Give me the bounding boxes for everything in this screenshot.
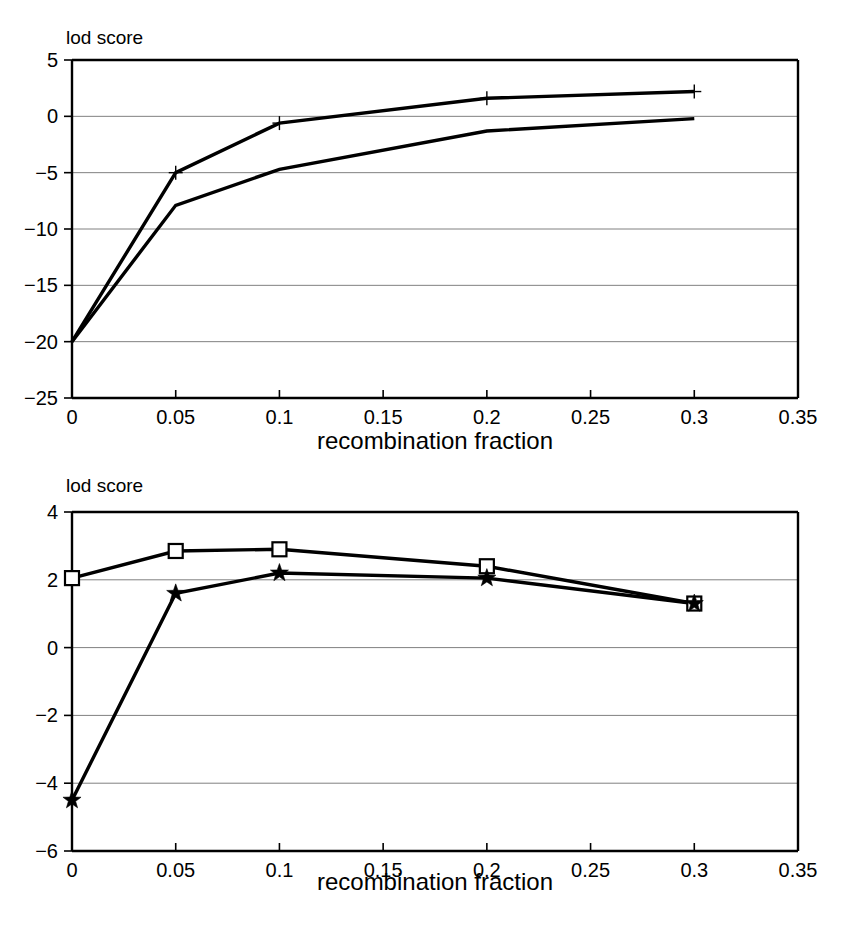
y-tick-label: −6 bbox=[35, 840, 58, 862]
y-tick-labels-bottom: 420−2−4−6 bbox=[35, 501, 58, 862]
x-axis-title-bottom: recombination fraction bbox=[317, 868, 553, 895]
marker-plus-series-upper bbox=[480, 91, 494, 105]
y-tick-label: −2 bbox=[35, 704, 58, 726]
x-tick-label: 0.25 bbox=[571, 859, 610, 881]
x-tick-label: 0.05 bbox=[156, 859, 195, 881]
marker-square-icon bbox=[65, 571, 79, 585]
series-group-bottom bbox=[72, 549, 694, 800]
series-line-series-lower bbox=[72, 119, 694, 342]
x-tick-labels-top: 00.050.10.150.20.250.30.35 bbox=[66, 406, 817, 428]
x-tick-label: 0.35 bbox=[779, 406, 818, 428]
x-tick-label: 0.3 bbox=[680, 406, 708, 428]
x-tick-label: 0 bbox=[66, 859, 77, 881]
x-tick-label: 0.1 bbox=[266, 859, 294, 881]
y-tick-label: 0 bbox=[47, 105, 58, 127]
gridlines-top bbox=[72, 116, 798, 341]
x-tick-label: 0.25 bbox=[571, 406, 610, 428]
x-tick-label: 0.05 bbox=[156, 406, 195, 428]
y-tick-label: 5 bbox=[47, 49, 58, 71]
x-axis-title-top: recombination fraction bbox=[317, 427, 553, 454]
y-tick-label: −10 bbox=[24, 218, 58, 240]
x-tick-label: 0 bbox=[66, 406, 77, 428]
y-tick-label: 4 bbox=[47, 501, 58, 523]
figure-container: 50−5−10−15−20−25 00.050.10.150.20.250.30… bbox=[0, 0, 850, 938]
marker-plus-series-upper bbox=[687, 85, 701, 99]
y-tick-label: 0 bbox=[47, 637, 58, 659]
chart-panel-bottom: 420−2−4−6 00.050.10.150.20.250.30.35 lod… bbox=[0, 452, 850, 938]
chart-svg-bottom: 420−2−4−6 00.050.10.150.20.250.30.35 lod… bbox=[0, 452, 850, 938]
markers-bottom bbox=[63, 542, 703, 808]
x-tick-label: 0.1 bbox=[266, 406, 294, 428]
y-tick-label: −4 bbox=[35, 772, 58, 794]
x-tick-label: 0.2 bbox=[473, 406, 501, 428]
y-tick-label: 2 bbox=[47, 569, 58, 591]
chart-panel-top: 50−5−10−15−20−25 00.050.10.150.20.250.30… bbox=[0, 0, 850, 470]
series-line-series-star bbox=[72, 573, 694, 800]
y-axis-caption-bottom: lod score bbox=[66, 475, 143, 496]
y-tick-label: −20 bbox=[24, 331, 58, 353]
y-tick-label: −15 bbox=[24, 274, 58, 296]
marker-star-icon bbox=[270, 564, 288, 581]
y-tick-labels-top: 50−5−10−15−20−25 bbox=[24, 49, 58, 409]
x-tick-label: 0.35 bbox=[779, 859, 818, 881]
marker-plus-series-upper bbox=[272, 116, 286, 130]
chart-svg-top: 50−5−10−15−20−25 00.050.10.150.20.250.30… bbox=[0, 0, 850, 470]
markers-top bbox=[169, 85, 702, 180]
x-tick-label: 0.15 bbox=[364, 406, 403, 428]
y-tick-label: −25 bbox=[24, 387, 58, 409]
marker-square-icon bbox=[272, 542, 286, 556]
x-tick-label: 0.3 bbox=[680, 859, 708, 881]
y-axis-caption-top: lod score bbox=[66, 27, 143, 48]
series-group-top bbox=[72, 92, 694, 342]
marker-square-icon bbox=[169, 544, 183, 558]
y-tick-label: −5 bbox=[35, 162, 58, 184]
marker-star-icon bbox=[167, 584, 185, 601]
